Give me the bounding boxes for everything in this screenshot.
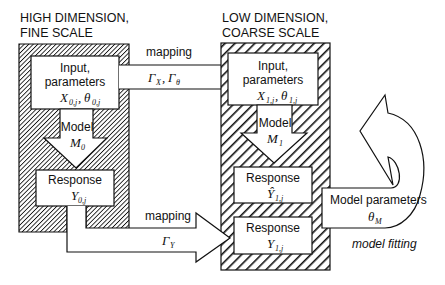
svg-text:θ: θ — [368, 209, 375, 224]
svg-text:X: X — [59, 90, 69, 105]
svg-text:0,j: 0,j — [78, 196, 87, 205]
diagram-canvas: HIGH DIMENSION, FINE SCALE Input, parame… — [0, 0, 445, 285]
right-title-line1: LOW DIMENSION, — [222, 11, 328, 25]
svg-text:1,j: 1,j — [275, 244, 284, 253]
left-input-line2: parameters — [45, 75, 106, 89]
left-panel: HIGH DIMENSION, FINE SCALE Input, parame… — [19, 11, 129, 232]
svg-text:M: M — [374, 217, 383, 226]
left-title-line1: HIGH DIMENSION, — [20, 11, 129, 25]
svg-text:θ: θ — [176, 78, 180, 87]
right-model-label: Model — [259, 116, 292, 130]
mapping-top-math: Γ X , Γ θ — [147, 70, 180, 87]
svg-text:X: X — [256, 88, 266, 103]
svg-text:θ: θ — [281, 88, 288, 103]
svg-text:Γ: Γ — [147, 70, 156, 85]
left-title-line2: FINE SCALE — [20, 26, 93, 40]
right-input-line1: Input, — [258, 59, 288, 73]
svg-text:Γ: Γ — [161, 233, 170, 248]
left-model-label: Model — [61, 120, 94, 134]
right-panel: LOW DIMENSION, COARSE SCALE Input, param… — [221, 11, 330, 270]
svg-text:,: , — [162, 70, 165, 85]
svg-text:1,j: 1,j — [275, 194, 284, 203]
right-title-line2: COARSE SCALE — [222, 26, 319, 40]
svg-text:1: 1 — [279, 139, 283, 148]
model-parameters-label: Model parameters — [330, 193, 427, 207]
mapping-bottom-label: mapping — [145, 209, 191, 223]
model-parameters-feedback: Model parameters θ M model fitting — [322, 95, 427, 251]
svg-text:1,j: 1,j — [266, 96, 275, 105]
svg-text:M: M — [266, 131, 279, 146]
svg-text:Γ: Γ — [167, 70, 176, 85]
left-input-line1: Input, — [60, 61, 90, 75]
svg-text:,: , — [275, 88, 278, 103]
svg-text:0,j: 0,j — [69, 98, 78, 107]
mapping-top-label: mapping — [146, 45, 192, 59]
svg-text:0: 0 — [81, 143, 85, 152]
model-fitting-label: model fitting — [352, 237, 417, 251]
right-response-label: Response — [246, 221, 300, 235]
svg-text:θ: θ — [84, 90, 91, 105]
svg-text:,: , — [78, 90, 81, 105]
right-predicted-response-label: Response — [246, 171, 300, 185]
right-input-line2: parameters — [243, 73, 304, 87]
svg-text:0,j: 0,j — [92, 98, 101, 107]
svg-text:1,j: 1,j — [289, 96, 298, 105]
left-response-label: Response — [48, 173, 102, 187]
